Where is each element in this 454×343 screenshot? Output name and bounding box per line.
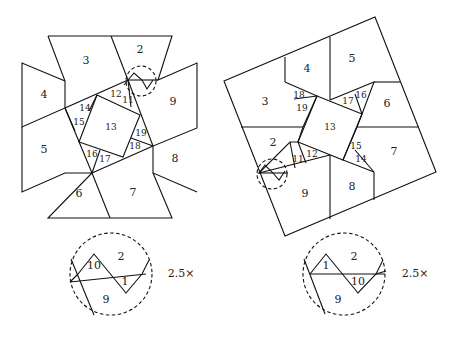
- piece-label-8: 8: [349, 180, 356, 193]
- piece-label-2: 2: [137, 43, 144, 56]
- piece-label-9: 9: [302, 187, 309, 200]
- inset-label-2: 2: [118, 250, 125, 263]
- piece-label-15: 15: [350, 141, 362, 151]
- piece-label-6: 6: [76, 187, 83, 200]
- piece-label-7: 7: [130, 186, 137, 199]
- piece-label-8: 8: [172, 152, 179, 165]
- piece-label-3: 3: [83, 54, 90, 67]
- piece-label-12: 12: [306, 149, 317, 159]
- piece-label-17: 17: [99, 154, 111, 164]
- magnification-label: 2.5×: [402, 267, 429, 280]
- piece-label-14: 14: [79, 103, 91, 113]
- inset-label-10: 10: [351, 275, 365, 288]
- left-inset: [70, 233, 152, 315]
- inset-label-9: 9: [335, 293, 342, 306]
- piece-label-9: 9: [170, 95, 177, 108]
- piece-label-13: 13: [324, 122, 336, 132]
- piece-label-11: 11: [122, 95, 133, 105]
- piece-label-17: 17: [342, 96, 354, 106]
- piece-label-2: 2: [270, 136, 277, 149]
- piece-label-18: 18: [129, 141, 141, 151]
- piece-labels: 2345678911121314151617181923456789111213…: [41, 43, 429, 306]
- piece-label-14: 14: [355, 154, 367, 164]
- piece-label-19: 19: [296, 103, 308, 113]
- piece-label-5: 5: [41, 143, 48, 156]
- right-inset: [303, 233, 386, 315]
- piece-label-4: 4: [41, 88, 48, 101]
- piece-label-18: 18: [293, 90, 305, 100]
- piece-label-15: 15: [73, 117, 85, 127]
- dissection-diagram: 2345678911121314151617181923456789111213…: [0, 0, 454, 343]
- inset-label-1: 1: [323, 259, 330, 272]
- piece-label-13: 13: [105, 122, 117, 132]
- inset-label-9: 9: [103, 293, 110, 306]
- piece-label-4: 4: [304, 62, 311, 75]
- piece-label-16: 16: [86, 149, 98, 159]
- inset-label-2: 2: [351, 250, 358, 263]
- piece-label-16: 16: [355, 90, 367, 100]
- piece-label-6: 6: [384, 97, 391, 110]
- piece-label-3: 3: [262, 95, 269, 108]
- magnification-label: 2.5×: [168, 267, 195, 280]
- piece-label-7: 7: [391, 145, 398, 158]
- piece-label-19: 19: [135, 128, 147, 138]
- piece-label-5: 5: [349, 52, 356, 65]
- piece-label-12: 12: [110, 89, 121, 99]
- piece-label-11: 11: [292, 154, 303, 164]
